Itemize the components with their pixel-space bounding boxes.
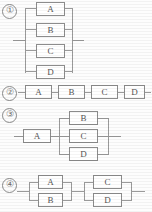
wire-1-branch-d-left xyxy=(25,71,36,72)
wire-4-branch-d-right xyxy=(122,200,131,201)
block-3-a: A xyxy=(23,129,51,143)
wire-3-branch-b-right xyxy=(98,118,108,119)
block-1-c: C xyxy=(36,44,65,58)
wire-3-branch-c-left xyxy=(59,136,69,137)
wire-4-left-rail-2 xyxy=(84,182,85,201)
block-3-c: C xyxy=(69,129,98,143)
wire-3-input-stub xyxy=(14,136,23,137)
scan-noise-overlay xyxy=(0,0,152,212)
block-label: C xyxy=(47,46,53,56)
block-4-c: C xyxy=(93,175,122,189)
wire-1-branch-b-left xyxy=(25,29,36,30)
block-label: D xyxy=(131,87,138,97)
block-label: A xyxy=(35,87,42,97)
block-label: B xyxy=(47,25,53,35)
block-2-d: D xyxy=(124,85,145,99)
wire-3-branch-d-right xyxy=(98,154,108,155)
block-1-b: B xyxy=(36,23,65,37)
wire-4-left-rail-1 xyxy=(29,182,30,201)
block-label: A xyxy=(47,4,54,14)
block-1-a: A xyxy=(36,2,65,16)
block-label: C xyxy=(80,131,86,141)
block-label: A xyxy=(47,177,54,187)
wire-1-branch-a-right xyxy=(65,8,73,9)
item-index-3: ③ xyxy=(2,108,17,123)
block-2-a: A xyxy=(25,85,52,99)
block-label: D xyxy=(80,149,87,159)
block-4-a: A xyxy=(38,175,63,189)
wire-3-branch-d-left xyxy=(59,154,69,155)
block-label: D xyxy=(104,195,111,205)
wire-1-branch-c-right xyxy=(65,50,73,51)
wire-3-branch-c-right xyxy=(98,136,108,137)
wire-1-output-stub xyxy=(73,40,84,41)
diagram-canvas: ① A B C D ② A B C D ③ A xyxy=(0,0,152,212)
block-label: A xyxy=(34,131,41,141)
wire-1-branch-b-right xyxy=(65,29,73,30)
wire-4-branch-b-right xyxy=(63,200,72,201)
block-4-b: B xyxy=(38,193,63,207)
block-3-d: D xyxy=(69,147,98,161)
block-label: B xyxy=(68,87,74,97)
wire-3-branch-b-left xyxy=(59,118,69,119)
block-1-d: D xyxy=(36,65,65,79)
wire-1-left-rail xyxy=(25,8,26,73)
block-label: D xyxy=(47,67,54,77)
item-index-1: ① xyxy=(2,4,17,19)
wire-4-middle-link xyxy=(71,191,85,192)
block-label: B xyxy=(80,113,86,123)
wire-1-branch-c-left xyxy=(25,50,36,51)
block-3-b: B xyxy=(69,111,98,125)
item-index-4: ④ xyxy=(2,178,17,193)
wire-3-output-stub xyxy=(109,136,121,137)
wire-4-output-stub xyxy=(132,191,145,192)
wire-4-branch-d-left xyxy=(84,200,93,201)
wire-4-branch-b-left xyxy=(29,200,38,201)
block-label: C xyxy=(101,87,107,97)
wire-4-branch-c-right xyxy=(122,182,131,183)
block-4-d: D xyxy=(93,193,122,207)
wire-1-branch-d-right xyxy=(65,71,73,72)
wire-4-branch-c-left xyxy=(84,182,93,183)
item-index-2: ② xyxy=(2,86,17,101)
block-2-b: B xyxy=(58,85,85,99)
wire-2-output-stub xyxy=(145,92,151,93)
block-label: C xyxy=(104,177,110,187)
block-2-c: C xyxy=(91,85,118,99)
wire-2-input-stub xyxy=(18,92,25,93)
wire-1-branch-a-left xyxy=(25,8,36,9)
wire-4-branch-a-left xyxy=(29,182,38,183)
block-label: B xyxy=(47,195,53,205)
wire-4-branch-a-right xyxy=(63,182,72,183)
